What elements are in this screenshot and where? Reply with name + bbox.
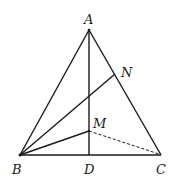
segment-BM (20, 131, 89, 155)
label-A: A (83, 12, 93, 27)
segment-AB (20, 30, 89, 155)
label-M: M (92, 116, 107, 131)
label-C: C (156, 162, 166, 177)
point-A (88, 29, 91, 32)
geometry-diagram: A B C D M N (0, 0, 180, 183)
label-N: N (120, 65, 133, 80)
point-M (88, 130, 90, 132)
segment-BN (20, 74, 115, 155)
segment-AC (89, 30, 161, 155)
label-D: D (83, 162, 95, 177)
label-B: B (11, 162, 22, 177)
point-B (19, 154, 22, 157)
